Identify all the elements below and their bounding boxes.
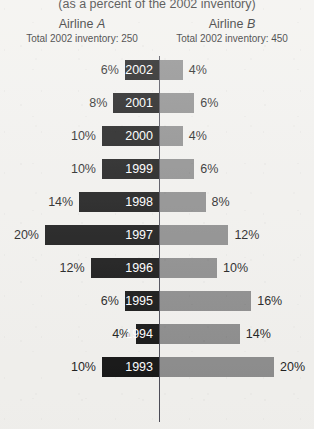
value-label-airline-a: 10% xyxy=(71,159,96,179)
value-label-airline-a: 14% xyxy=(48,192,73,212)
diverging-bar-chart: 20026%4%20018%6%200010%4%199910%6%199814… xyxy=(0,56,314,422)
airline-b-title: Airline B xyxy=(158,17,306,32)
value-label-airline-a: 12% xyxy=(60,258,85,278)
value-label-airline-b: 20% xyxy=(280,357,305,377)
chart-row: 199310%20% xyxy=(0,357,314,379)
year-label: 1999 xyxy=(125,159,153,179)
value-label-airline-a: 10% xyxy=(71,126,96,146)
airline-a-total: Total 2002 inventory: 250 xyxy=(8,32,156,46)
column-header-airline-b: Airline B Total 2002 inventory: 450 xyxy=(158,17,306,46)
value-label-airline-b: 4% xyxy=(189,60,207,80)
value-label-airline-b: 6% xyxy=(200,159,218,179)
chart-row: 19956%16% xyxy=(0,291,314,313)
chart-row: 199814%8% xyxy=(0,192,314,214)
year-label: 1997 xyxy=(125,225,153,245)
chart-row: 200010%4% xyxy=(0,126,314,148)
bar-airline-b xyxy=(160,126,183,146)
year-label: 1994 xyxy=(125,324,153,344)
bar-airline-b xyxy=(160,60,183,80)
bar-airline-b xyxy=(160,324,240,344)
column-header-airline-a: Airline A Total 2002 inventory: 250 xyxy=(8,17,156,46)
airline-a-title: Airline A xyxy=(8,17,156,32)
value-label-airline-b: 16% xyxy=(257,291,282,311)
chart-row: 20018%6% xyxy=(0,93,314,115)
airline-a-letter: A xyxy=(97,17,105,31)
value-label-airline-a: 6% xyxy=(101,291,119,311)
value-label-airline-a: 20% xyxy=(14,225,39,245)
value-label-airline-a: 10% xyxy=(71,357,96,377)
chart-row: 199720%12% xyxy=(0,225,314,247)
year-label: 2001 xyxy=(125,93,153,113)
column-headers: Airline A Total 2002 inventory: 250 Airl… xyxy=(0,17,314,51)
bar-airline-b xyxy=(160,192,206,212)
chart-row: 19944%14% xyxy=(0,324,314,346)
value-label-airline-a: 8% xyxy=(89,93,107,113)
airline-a-name: Airline xyxy=(59,17,94,31)
bar-airline-b xyxy=(160,357,274,377)
chart-row: 20026%4% xyxy=(0,60,314,82)
bar-airline-b xyxy=(160,225,228,245)
value-label-airline-b: 6% xyxy=(200,93,218,113)
bar-airline-b xyxy=(160,258,217,278)
value-label-airline-b: 12% xyxy=(234,225,259,245)
chart-row: 199612%10% xyxy=(0,258,314,280)
value-label-airline-a: 6% xyxy=(101,60,119,80)
value-label-airline-b: 10% xyxy=(223,258,248,278)
year-label: 2002 xyxy=(125,60,153,80)
year-label: 1993 xyxy=(125,357,153,377)
year-label: 1996 xyxy=(125,258,153,278)
year-label: 1998 xyxy=(125,192,153,212)
airline-b-letter: B xyxy=(247,17,255,31)
chart-subtitle: (as a percent of the 2002 inventory) xyxy=(0,0,314,11)
bar-airline-b xyxy=(160,291,251,311)
airline-b-total: Total 2002 inventory: 450 xyxy=(158,32,306,46)
airline-b-name: Airline xyxy=(209,17,244,31)
year-label: 2000 xyxy=(125,126,153,146)
value-label-airline-b: 14% xyxy=(246,324,271,344)
bar-airline-b xyxy=(160,159,194,179)
value-label-airline-b: 8% xyxy=(212,192,230,212)
center-axis-line xyxy=(159,56,160,422)
chart-row: 199910%6% xyxy=(0,159,314,181)
year-label: 1995 xyxy=(125,291,153,311)
bar-airline-b xyxy=(160,93,194,113)
value-label-airline-b: 4% xyxy=(189,126,207,146)
